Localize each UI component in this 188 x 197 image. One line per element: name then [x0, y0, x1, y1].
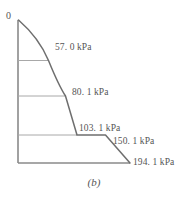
- pressure-label-150: 150. 1 kPa: [113, 137, 154, 147]
- pressure-label-194: 194. 1 kPa: [133, 158, 174, 168]
- pressure-label-103: 103. 1 kPa: [79, 124, 120, 134]
- pressure-label-57: 57. 0 kPa: [55, 43, 92, 53]
- origin-label: 0: [6, 11, 11, 21]
- pressure-label-80: 80. 1 kPa: [72, 88, 109, 98]
- pressure-distribution-figure: 0 57. 0 kPa 80. 1 kPa 103. 1 kPa 150. 1 …: [0, 0, 188, 197]
- figure-caption: (b): [0, 176, 188, 188]
